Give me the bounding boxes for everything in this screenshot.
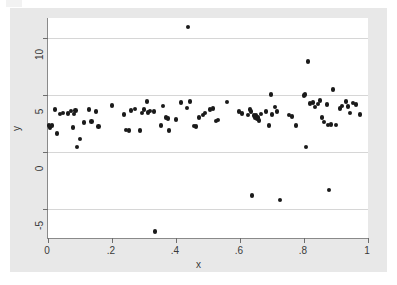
- data-point: [127, 128, 132, 133]
- data-point: [327, 188, 332, 193]
- data-point: [304, 145, 309, 150]
- data-point: [203, 111, 208, 116]
- data-point: [311, 100, 316, 105]
- data-point: [294, 123, 299, 128]
- data-point: [250, 193, 255, 198]
- gridline-y-neg5: [48, 209, 368, 210]
- data-point: [340, 104, 345, 109]
- gridline-y-5: [48, 95, 368, 96]
- data-point: [167, 128, 172, 133]
- data-point: [159, 123, 164, 128]
- data-point: [122, 112, 127, 117]
- data-point: [194, 124, 199, 129]
- data-point: [145, 99, 150, 104]
- data-point: [153, 229, 158, 234]
- data-point: [275, 109, 280, 114]
- data-point: [50, 123, 55, 128]
- data-point: [110, 103, 115, 108]
- data-point: [71, 125, 76, 130]
- data-point: [257, 118, 262, 123]
- data-point: [259, 112, 264, 117]
- data-point: [185, 106, 190, 111]
- data-point: [306, 59, 311, 64]
- data-point: [87, 107, 92, 112]
- data-point: [225, 100, 230, 105]
- data-point: [78, 137, 83, 142]
- data-point: [303, 92, 308, 97]
- data-point: [216, 118, 221, 123]
- data-point: [358, 112, 363, 117]
- x-tick-2: [176, 238, 177, 243]
- data-point: [354, 102, 359, 107]
- data-point: [267, 123, 272, 128]
- x-tick-label-3: .6: [224, 245, 254, 256]
- x-tick-4: [304, 238, 305, 243]
- x-tick-0: [48, 238, 49, 243]
- data-point: [75, 145, 80, 150]
- data-point: [346, 104, 351, 109]
- image-artifact: [6, 0, 22, 7]
- x-tick-label-1: .2: [96, 245, 126, 256]
- data-point: [334, 123, 339, 128]
- y-tick-2: [43, 152, 48, 153]
- data-point: [240, 111, 245, 116]
- data-point: [318, 98, 323, 103]
- data-point: [174, 117, 179, 122]
- data-point: [188, 99, 193, 104]
- data-point: [186, 25, 191, 30]
- data-point: [211, 106, 216, 111]
- data-point: [325, 102, 330, 107]
- data-point: [278, 198, 283, 203]
- data-point: [138, 128, 143, 133]
- data-point: [96, 124, 101, 129]
- y-tick-label-1: 5: [34, 95, 45, 129]
- gridline-y-10: [48, 38, 368, 39]
- y-tick-1: [43, 95, 48, 96]
- x-tick-label-5: 1: [352, 245, 382, 256]
- y-tick-0: [43, 38, 48, 39]
- data-point: [94, 109, 99, 114]
- data-point: [348, 111, 353, 116]
- data-point: [320, 115, 325, 120]
- data-point: [269, 92, 274, 97]
- y-tick-3: [43, 209, 48, 210]
- data-point: [329, 122, 334, 127]
- x-tick-5: [368, 238, 369, 243]
- data-point: [89, 119, 94, 124]
- y-tick-label-0: 10: [34, 38, 45, 72]
- data-point: [82, 120, 87, 125]
- data-point: [73, 108, 78, 113]
- data-point: [161, 104, 166, 109]
- data-point: [290, 114, 295, 119]
- data-point: [331, 87, 336, 92]
- y-axis-title: y: [11, 126, 22, 131]
- x-tick-label-4: .8: [288, 245, 318, 256]
- data-point: [264, 109, 269, 114]
- y-tick-label-3: -5: [34, 208, 45, 242]
- data-point: [61, 111, 66, 116]
- x-axis-title: x: [0, 259, 397, 270]
- gridline-y-0: [48, 152, 368, 153]
- data-point: [270, 112, 275, 117]
- data-point: [133, 107, 138, 112]
- x-tick-1: [112, 238, 113, 243]
- data-point: [152, 109, 157, 114]
- chart-page: y x 1050-5 0.2.4.6.81: [0, 0, 397, 285]
- y-tick-label-2: 0: [34, 151, 45, 185]
- x-tick-3: [240, 238, 241, 243]
- data-point: [166, 116, 171, 121]
- data-point: [53, 107, 58, 112]
- x-tick-label-2: .4: [160, 245, 190, 256]
- x-tick-label-0: 0: [32, 245, 62, 256]
- data-point: [179, 100, 184, 105]
- data-point: [55, 131, 60, 136]
- plot-region: [47, 18, 368, 239]
